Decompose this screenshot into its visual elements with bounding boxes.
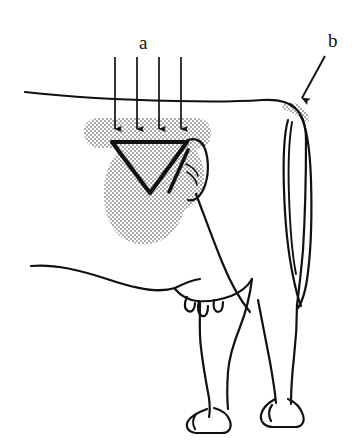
hoof-far-cleft xyxy=(269,405,272,421)
teat-rear xyxy=(214,300,223,312)
tail-head-shading xyxy=(282,103,309,123)
hoof-near-cleft xyxy=(193,414,196,429)
belly-line xyxy=(31,266,175,291)
flank-line xyxy=(196,194,250,312)
figure-label-b: b xyxy=(328,31,338,50)
figure-label-a: a xyxy=(139,33,147,52)
hind-leg-near-front xyxy=(200,302,210,417)
udder-line xyxy=(175,279,200,288)
hind-leg-far-front xyxy=(258,300,276,403)
topline xyxy=(25,92,295,108)
cow-diagram-svg xyxy=(0,0,359,448)
tail-inner xyxy=(284,120,301,306)
hoof-far xyxy=(261,399,304,427)
hind-leg-far-rear xyxy=(291,305,297,404)
rump-contour xyxy=(295,108,306,305)
leader-arrow-b xyxy=(302,56,325,98)
figure-container: a b xyxy=(0,0,359,448)
